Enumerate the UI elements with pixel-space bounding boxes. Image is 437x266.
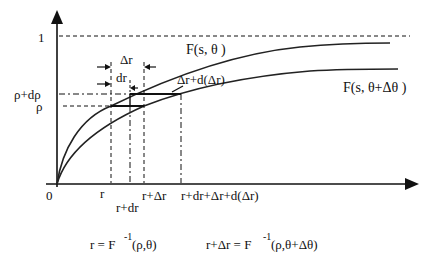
annotation-delta-r-plus-d: Δr+d(Δr) — [177, 72, 225, 87]
curve-label-f-theta-plus-dtheta: F(s, θ+Δθ ) — [343, 80, 407, 96]
svg-text:r+Δr = F: r+Δr = F — [206, 237, 251, 252]
annotation-delta-r: Δr — [120, 52, 133, 67]
x-axis-arrow-icon — [405, 178, 419, 190]
x-label-r-plus-dr: r+dr — [116, 200, 139, 215]
annotation-dr: dr — [116, 70, 128, 85]
x-label-r: r — [100, 186, 105, 201]
curve-f-theta — [57, 43, 390, 184]
svg-text:(ρ,θ+Δθ): (ρ,θ+Δθ) — [271, 237, 318, 252]
equation-left: r = F -1 (ρ,θ) — [90, 231, 157, 252]
equation-right: r+Δr = F -1 (ρ,θ+Δθ) — [206, 231, 318, 252]
y-tick-one: 1 — [38, 30, 45, 45]
axes — [46, 10, 419, 190]
y-axis-arrow-icon — [51, 10, 63, 24]
svg-text:(ρ,θ): (ρ,θ) — [132, 237, 157, 252]
y-label-rho: ρ — [36, 99, 43, 114]
curve-label-f-theta: F(s, θ ) — [186, 42, 226, 58]
svg-text:r = F: r = F — [90, 237, 115, 252]
origin-label: 0 — [46, 188, 53, 203]
x-label-r-far: r+dr+Δr+d(Δr) — [181, 188, 259, 203]
cdf-inverse-diagram: 1 ρ+dρ ρ 0 r r+dr r+Δr r+dr+Δr+d(Δr) Δr … — [0, 0, 437, 266]
x-label-r-plus-delta-r: r+Δr — [142, 188, 167, 203]
